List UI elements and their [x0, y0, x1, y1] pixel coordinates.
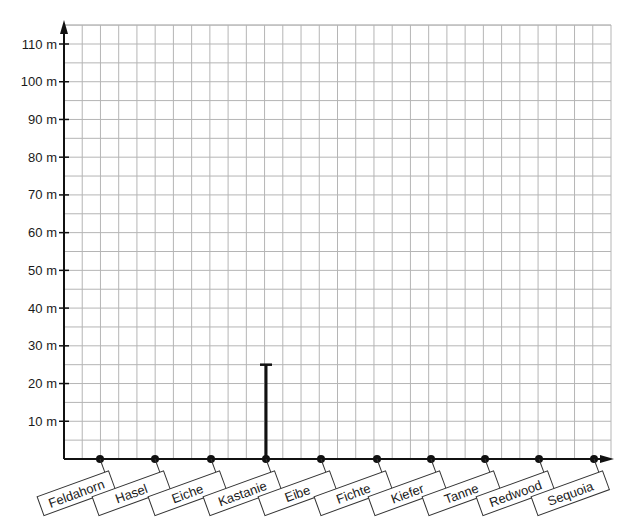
- y-axis-ticks: 10 m20 m30 m40 m50 m60 m70 m80 m90 m100 …: [21, 37, 69, 429]
- y-tick-label: 30 m: [28, 338, 57, 353]
- category-labels: FeldahornHaselEicheKastanieEibeFichteKie…: [32, 458, 609, 516]
- y-tick-label: 100 m: [21, 74, 57, 89]
- y-axis-arrow-icon: [60, 20, 68, 34]
- y-tick-label: 10 m: [28, 414, 57, 429]
- y-tick-label: 50 m: [28, 263, 57, 278]
- y-tick-label: 110 m: [22, 37, 57, 52]
- y-tick-label: 70 m: [28, 187, 57, 202]
- y-tick-label: 80 m: [28, 150, 57, 165]
- bar-chart: 10 m20 m30 m40 m50 m60 m70 m80 m90 m100 …: [0, 0, 638, 522]
- y-tick-label: 60 m: [28, 225, 57, 240]
- bars: [96, 365, 598, 463]
- grid: [64, 25, 611, 459]
- x-axis-arrow-icon: [600, 455, 614, 463]
- y-tick-label: 20 m: [28, 376, 57, 391]
- y-tick-label: 40 m: [28, 301, 57, 316]
- y-tick-label: 90 m: [28, 112, 57, 127]
